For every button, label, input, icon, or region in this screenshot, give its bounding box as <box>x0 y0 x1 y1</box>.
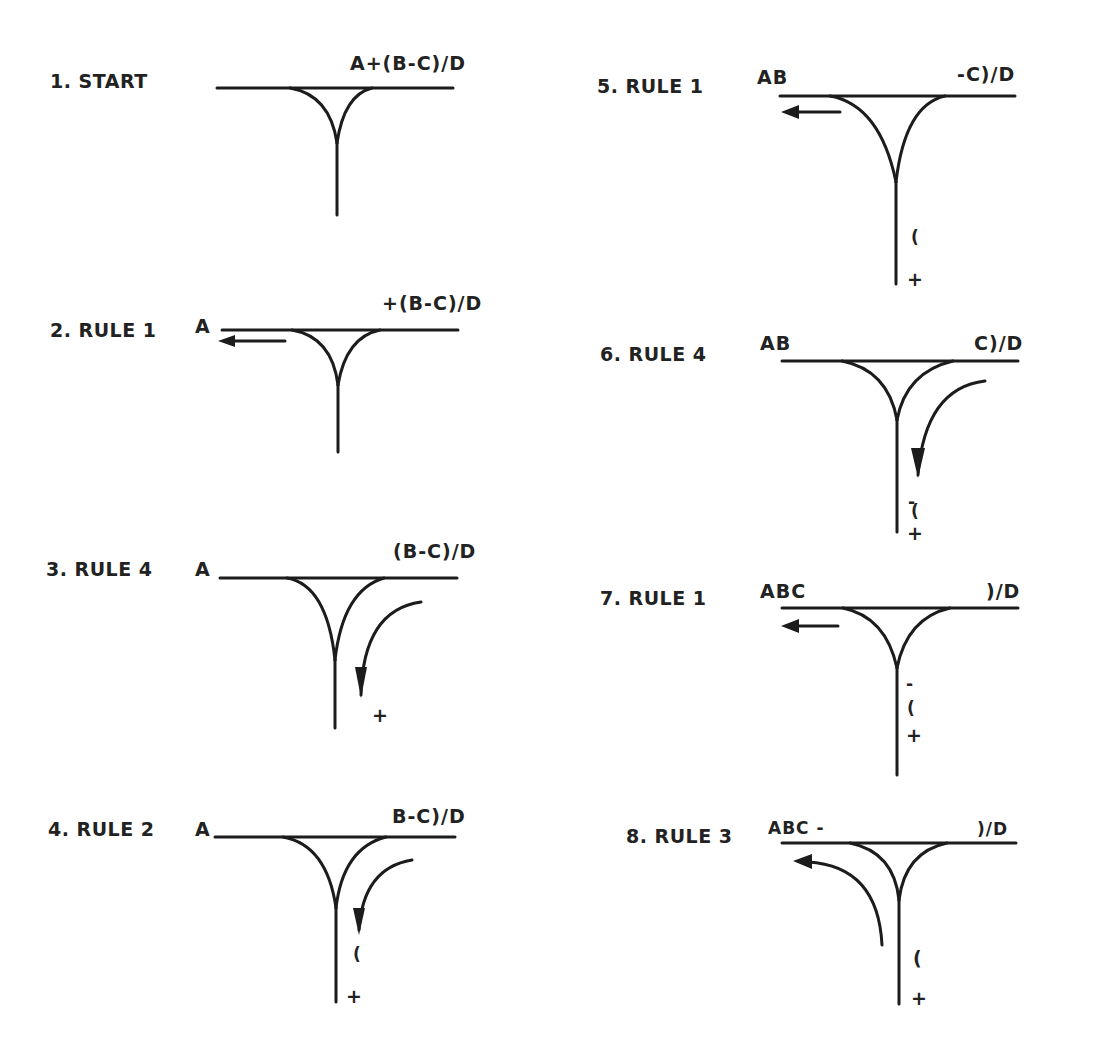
junction-left-curve <box>850 843 899 900</box>
panel-1: 1. START A+(B-C)/D <box>50 52 466 215</box>
junction-left-curve <box>842 361 897 420</box>
stack-item: - <box>906 674 914 694</box>
stack-item: + <box>907 522 924 544</box>
input-expression: )/D <box>977 819 1008 839</box>
arrow-down-icon <box>353 860 412 935</box>
junction-right-curve <box>896 96 945 182</box>
junction-left-curve <box>843 608 897 668</box>
junction-right-curve <box>337 88 372 143</box>
panel-6: 6. RULE 4 AB - ( + C)/D <box>600 332 1023 544</box>
input-expression: +(B-C)/D <box>382 292 482 314</box>
panel-5: 5. RULE 1 AB ( + -C)/D <box>597 63 1015 290</box>
arrow-down-icon <box>355 602 421 698</box>
junction-right-curve <box>897 608 950 668</box>
arrow-left-icon <box>781 619 838 633</box>
input-expression: (B-C)/D <box>393 540 476 562</box>
input-expression: -C)/D <box>957 63 1015 85</box>
stack-item: + <box>346 985 363 1007</box>
junction-right-curve <box>338 330 380 385</box>
output-expression: A <box>195 818 211 840</box>
panel-8: 8. RULE 3 ABC - ( + )/D <box>626 818 1016 1009</box>
panel-3: 3. RULE 4 A + (B-C)/D <box>46 540 476 728</box>
junction-left-curve <box>292 330 338 385</box>
stack-item: ( <box>911 501 920 521</box>
output-expression: A <box>195 558 211 580</box>
step-label: 6. RULE 4 <box>600 343 707 365</box>
junction-right-curve <box>897 361 953 420</box>
output-expression: A <box>195 315 211 337</box>
junction-right-curve <box>899 843 947 900</box>
stack-item: + <box>907 268 924 290</box>
arrow-down-icon <box>911 381 985 478</box>
junction-left-curve <box>283 837 336 908</box>
step-label: 2. RULE 1 <box>50 319 157 341</box>
step-label: 8. RULE 3 <box>626 825 733 847</box>
step-label: 4. RULE 2 <box>48 818 155 840</box>
panel-4: 4. RULE 2 A ( + B-C)/D <box>48 805 466 1007</box>
junction-right-curve <box>335 578 384 660</box>
input-expression: B-C)/D <box>392 805 466 827</box>
shunting-yard-diagram: 1. START A+(B-C)/D 2. RULE 1 A +(B-C)/D … <box>0 0 1103 1047</box>
output-expression: AB <box>760 332 791 354</box>
panel-2: 2. RULE 1 A +(B-C)/D <box>50 292 482 452</box>
step-label: 3. RULE 4 <box>46 558 153 580</box>
stack-item: + <box>372 704 389 726</box>
arrow-left-icon <box>218 335 285 347</box>
junction-left-curve <box>287 578 335 660</box>
junction-right-curve <box>336 837 386 908</box>
junction-left-curve <box>830 96 896 182</box>
arrow-up-left-icon <box>793 854 882 945</box>
stack-item: ( <box>353 944 362 964</box>
stack-item: ( <box>913 947 923 969</box>
output-expression: AB <box>757 66 788 88</box>
step-label: 7. RULE 1 <box>600 587 707 609</box>
input-expression: )/D <box>986 580 1020 602</box>
input-expression: A+(B-C)/D <box>350 52 466 74</box>
panel-7: 7. RULE 1 ABC - ( + )/D <box>600 580 1020 775</box>
output-expression: ABC <box>760 580 806 602</box>
stack-item: + <box>911 987 928 1009</box>
stack-item: ( <box>911 227 920 247</box>
arrow-left-icon <box>781 105 840 119</box>
stack-item: ( <box>907 698 916 718</box>
output-expression: ABC - <box>768 818 825 838</box>
step-label: 5. RULE 1 <box>597 75 704 97</box>
stack-item: + <box>906 724 923 746</box>
junction-left-curve <box>290 88 337 143</box>
input-expression: C)/D <box>974 332 1023 354</box>
step-label: 1. START <box>50 70 148 92</box>
